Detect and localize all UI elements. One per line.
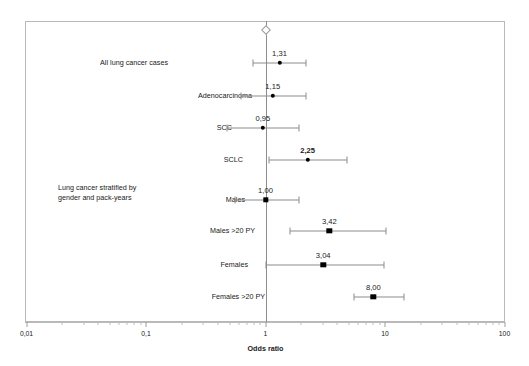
x-tick-label: 10 [381, 330, 389, 338]
point-value-label: 2,25 [300, 146, 315, 155]
row-label: Females [0, 260, 248, 269]
x-tick-minor [119, 322, 120, 325]
x-tick-minor [110, 322, 111, 325]
row-label: Males [0, 195, 245, 204]
x-tick-minor [337, 322, 338, 325]
x-tick-minor [477, 322, 478, 325]
ci-lower-cap [268, 157, 269, 164]
row-label: SCC [0, 123, 232, 132]
row-label: Adenocarcinoma [0, 91, 252, 100]
x-tick-label: 0,01 [20, 330, 33, 338]
point-marker-square [371, 294, 376, 299]
row-label: Females >20 PY [0, 292, 265, 301]
ci-lower-cap [265, 262, 266, 269]
x-tick-minor [492, 322, 493, 325]
x-tick-minor [217, 322, 218, 325]
x-tick-minor [62, 322, 63, 325]
x-tick-minor [358, 322, 359, 325]
ci-upper-cap [383, 262, 384, 269]
point-value-label: 3,42 [322, 217, 337, 226]
x-tick-minor [260, 322, 261, 325]
x-tick-major [504, 322, 505, 327]
x-tick-label: 0,1 [141, 330, 150, 338]
x-tick-minor [246, 322, 247, 325]
point-marker-square [263, 197, 268, 202]
x-tick-minor [420, 322, 421, 325]
x-axis-title: Odds ratio [248, 344, 284, 353]
ci-lower-cap [227, 125, 228, 132]
confidence-interval-bar [354, 297, 404, 298]
ci-upper-cap [306, 60, 307, 67]
point-value-label: 0,95 [255, 114, 270, 123]
row-label: All lung cancer cases [0, 58, 168, 67]
ci-lower-cap [289, 228, 290, 235]
x-tick-minor [238, 322, 239, 325]
x-tick-label: 100 [499, 330, 510, 338]
row-label: Males >20 PY [0, 226, 255, 235]
x-tick-minor [373, 322, 374, 325]
ci-upper-cap [404, 294, 405, 301]
point-value-label: 1,31 [272, 49, 287, 58]
x-tick-major [265, 322, 266, 327]
x-tick-minor [140, 322, 141, 325]
x-tick-major [385, 322, 386, 327]
x-tick-minor [203, 322, 204, 325]
row-label: SCLC [0, 155, 243, 164]
x-tick-minor [485, 322, 486, 325]
x-tick-minor [349, 322, 350, 325]
reference-line-or-1 [266, 21, 267, 322]
ci-upper-cap [346, 157, 347, 164]
x-tick-minor [366, 322, 367, 325]
ci-lower-cap [253, 60, 254, 67]
x-tick-minor [456, 322, 457, 325]
x-tick-minor [181, 322, 182, 325]
x-tick-minor [379, 322, 380, 325]
forest-plot-figure: Lung cancer stratified by gender and pac… [0, 0, 529, 366]
x-tick-minor [83, 322, 84, 325]
point-value-label: 8,00 [366, 283, 381, 292]
ci-upper-cap [306, 93, 307, 100]
ci-upper-cap [385, 228, 386, 235]
x-tick-minor [301, 322, 302, 325]
ci-upper-cap [298, 125, 299, 132]
x-tick-minor [468, 322, 469, 325]
x-tick-minor [442, 322, 443, 325]
x-tick-major [146, 322, 147, 327]
x-tick-label: 1 [264, 330, 268, 338]
ci-lower-cap [353, 294, 354, 301]
x-tick-major [26, 322, 27, 327]
point-value-label: 3,04 [316, 251, 331, 260]
point-marker-square [327, 228, 332, 233]
x-tick-minor [499, 322, 500, 325]
point-value-label: 1,15 [265, 82, 280, 91]
x-tick-minor [127, 322, 128, 325]
ci-lower-cap [240, 93, 241, 100]
ci-upper-cap [298, 197, 299, 204]
x-tick-minor [322, 322, 323, 325]
x-tick-minor [98, 322, 99, 325]
confidence-interval-bar [290, 231, 386, 232]
x-tick-minor [253, 322, 254, 325]
x-tick-minor [229, 322, 230, 325]
point-marker-square [321, 262, 326, 267]
point-value-label: 1,00 [258, 186, 273, 195]
x-tick-minor [134, 322, 135, 325]
ci-lower-cap [235, 197, 236, 204]
